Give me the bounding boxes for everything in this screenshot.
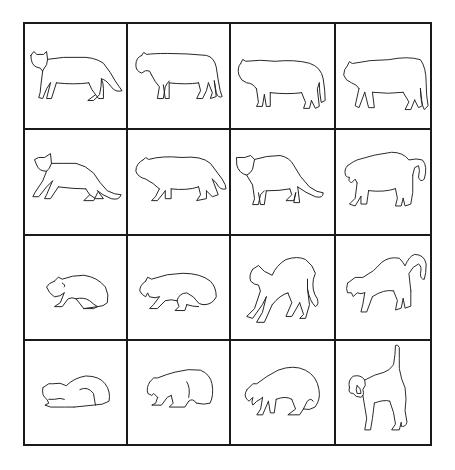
cat-standing-head-lowered-drawing bbox=[128, 24, 229, 128]
cat-standing-tail-down-drawing bbox=[336, 24, 430, 128]
cat-crouching-walk-drawing bbox=[25, 130, 126, 234]
cat-low-stalking-walk-drawing bbox=[128, 130, 229, 234]
cell-r4c4 bbox=[336, 341, 430, 444]
cell-r3c1 bbox=[25, 236, 128, 341]
cell-r2c1 bbox=[25, 130, 128, 236]
cell-r4c3 bbox=[231, 341, 336, 444]
cell-r1c1 bbox=[25, 24, 128, 130]
cell-r1c2 bbox=[128, 24, 231, 130]
cat-crouched-hissing-drawing bbox=[128, 236, 229, 339]
cell-r4c2 bbox=[128, 341, 231, 444]
cell-r1c4 bbox=[336, 24, 430, 130]
cat-full-arch-tail-up-facing-drawing bbox=[336, 341, 430, 444]
cat-crouched-flattened-drawing bbox=[25, 341, 126, 444]
cat-arched-back-hissing-drawing bbox=[336, 236, 430, 339]
cell-r1c3 bbox=[231, 24, 336, 130]
cell-r4c1 bbox=[25, 341, 128, 444]
cat-standing-slightly-arched-drawing bbox=[231, 24, 334, 128]
cell-r2c2 bbox=[128, 130, 231, 236]
cat-crouched-defensive-drawing bbox=[128, 341, 229, 444]
cell-r3c4 bbox=[336, 236, 430, 341]
cat-standing-mouth-open-drawing bbox=[336, 130, 430, 234]
cat-crouched-arched-hissing-drawing bbox=[231, 341, 334, 444]
cell-r3c2 bbox=[128, 236, 231, 341]
cat-crouched-low-drawing bbox=[25, 236, 126, 339]
cell-r3c3 bbox=[231, 236, 336, 341]
cat-posture-grid bbox=[23, 22, 432, 446]
cell-r2c3 bbox=[231, 130, 336, 236]
cat-standing-neutral-drawing bbox=[25, 24, 126, 128]
cat-arched-back-drawing bbox=[231, 236, 334, 339]
cat-standing-ears-back-drawing bbox=[231, 130, 334, 234]
cell-r2c4 bbox=[336, 130, 430, 236]
